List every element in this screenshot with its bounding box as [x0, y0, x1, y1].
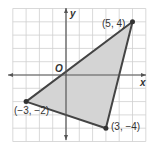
vertex-point — [103, 126, 108, 131]
vertex-label-3-neg4: (3, −4) — [111, 121, 140, 132]
vertex-label-neg3-neg2: (−3, −2) — [14, 105, 49, 116]
x-axis-label: x — [139, 77, 146, 88]
y-axis-label: y — [69, 8, 76, 19]
vertex-point — [130, 19, 135, 24]
vertex-label-5-4: (5, 4) — [102, 18, 125, 29]
coordinate-plane: x y O (5, 4) (−3, −2) (3, −4) — [0, 0, 151, 147]
vertex-point — [24, 99, 29, 104]
origin-label: O — [55, 63, 63, 74]
